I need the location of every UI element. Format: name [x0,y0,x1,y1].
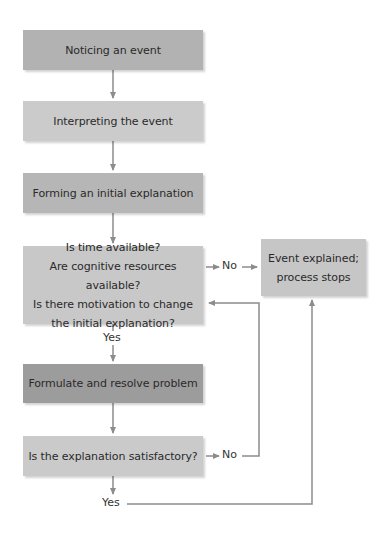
edge-label-satisfactory-no: No [222,448,237,461]
edge-label-satisfactory-yes: Yes [102,496,120,509]
node-label-line2: process stops [277,268,351,287]
node-formulate-resolve: Formulate and resolve problem [23,364,203,403]
question-motivation: Is there motivation to change [33,295,193,314]
node-label: Is the explanation satisfactory? [28,447,197,466]
node-label-line1: Event explained; [268,249,359,268]
node-label: Interpreting the event [53,112,172,131]
node-label: Formulate and resolve problem [28,374,197,393]
question-motivation-cont: the initial explanation? [51,314,174,333]
node-noticing-event: Noticing an event [23,30,203,70]
question-resources: Are cognitive resources available? [23,257,203,295]
question-time: Is time available? [66,238,161,257]
node-decision-questions: Is time available? Are cognitive resourc… [23,246,203,324]
node-event-explained: Event explained; process stops [261,239,366,296]
node-label: Forming an initial explanation [33,184,194,203]
node-forming-explanation: Forming an initial explanation [23,173,203,213]
edge-label-decide-no: No [222,259,237,272]
node-interpreting-event: Interpreting the event [23,101,203,141]
node-satisfactory-check: Is the explanation satisfactory? [23,436,203,476]
edge-label-decide-yes: Yes [103,331,121,344]
node-label: Noticing an event [65,41,161,60]
